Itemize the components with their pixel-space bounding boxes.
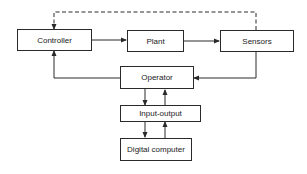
operator-to-controller-arrow bbox=[54, 51, 120, 78]
digital-computer-label: Digital computer bbox=[127, 145, 185, 154]
input-output-label: Input-output bbox=[139, 109, 182, 118]
sensors-block: Sensors bbox=[220, 30, 294, 52]
input-output-block: Input-output bbox=[120, 105, 201, 122]
digital-computer-block: Digital computer bbox=[120, 138, 192, 161]
controller-block: Controller bbox=[17, 29, 92, 51]
operator-label: Operator bbox=[141, 73, 173, 82]
sensors-to-operator-arrow bbox=[194, 52, 256, 78]
plant-label: Plant bbox=[146, 37, 164, 46]
sensors-label: Sensors bbox=[242, 37, 271, 46]
controller-label: Controller bbox=[37, 36, 72, 45]
plant-block: Plant bbox=[127, 30, 184, 52]
dashed-feedback-line bbox=[54, 12, 256, 30]
operator-block: Operator bbox=[120, 66, 194, 89]
